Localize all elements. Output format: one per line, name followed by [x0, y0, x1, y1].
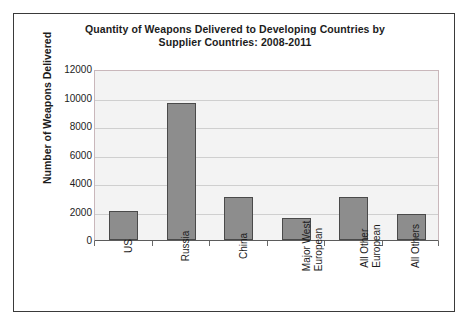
plot-area: [94, 70, 439, 241]
y-axis-tick-label: 0: [50, 236, 92, 246]
x-axis-label-slot: All OtherEuropean: [324, 246, 382, 324]
x-axis-category-label-line: China: [238, 233, 249, 259]
bar: [109, 211, 138, 240]
x-axis-category-label-line: Russia: [180, 231, 191, 262]
x-axis-label-slot: All Others: [382, 246, 440, 324]
y-axis-tick-label: 10000: [50, 94, 92, 104]
x-axis-label-slot: US: [94, 246, 152, 324]
chart-title-line-2: Supplier Countries: 2008-2011: [32, 36, 438, 49]
chart-title-line-1: Quantity of Weapons Delivered to Develop…: [85, 23, 385, 35]
x-axis-category-label-line: European: [370, 224, 382, 267]
bar-series: [95, 71, 438, 240]
y-axis-tick-label: 2000: [50, 208, 92, 218]
x-axis-category-label: All OtherEuropean: [359, 224, 382, 267]
x-axis-label-slot: Major WestEuropean: [267, 246, 325, 324]
y-axis-tick-label: 8000: [50, 122, 92, 132]
y-axis-tick-label: 6000: [50, 151, 92, 161]
x-axis-category-labels: USRussiaChinaMajor WestEuropeanAll Other…: [94, 246, 439, 324]
x-axis-label-slot: Russia: [152, 246, 210, 324]
y-axis-tick-labels: 120001000080006000400020000: [50, 63, 92, 247]
y-axis-tick-label: 4000: [50, 179, 92, 189]
chart-title: Quantity of Weapons Delivered to Develop…: [32, 23, 438, 49]
x-axis-category-label: All Others: [410, 224, 422, 268]
bar: [167, 103, 196, 241]
x-axis-category-label-line: Major West: [301, 221, 312, 271]
x-axis-category-label: China: [238, 233, 250, 259]
chart-frame: Quantity of Weapons Delivered to Develop…: [13, 13, 455, 312]
x-axis-category-label: Russia: [180, 231, 192, 262]
x-axis-category-label-line: European: [313, 221, 325, 271]
x-axis-category-label-line: All Other: [359, 229, 370, 268]
x-axis-category-label-line: US: [123, 239, 134, 253]
x-axis-category-label-line: All Others: [410, 224, 421, 268]
chart-page: Quantity of Weapons Delivered to Develop…: [0, 0, 470, 332]
x-axis-category-label: US: [123, 239, 135, 253]
y-axis-tick-label: 12000: [50, 65, 92, 75]
x-axis-label-slot: China: [209, 246, 267, 324]
x-axis-category-label: Major WestEuropean: [301, 221, 324, 271]
